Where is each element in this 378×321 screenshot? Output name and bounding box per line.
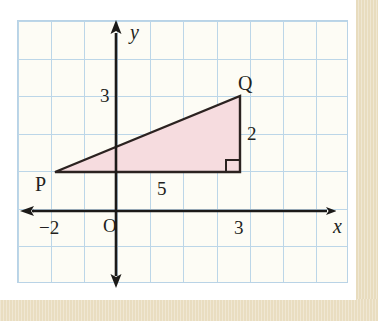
x-tick-label-minus2: −2 xyxy=(39,218,59,237)
page-background: y x 3 −2 3 O P Q 5 2 xyxy=(0,0,378,321)
side-label-height-2: 2 xyxy=(247,124,257,143)
side-label-base-5: 5 xyxy=(157,179,167,198)
y-axis-label: y xyxy=(130,22,139,42)
coordinate-geometry-figure: y x 3 −2 3 O P Q 5 2 xyxy=(0,0,356,300)
x-axis-left-arrowhead xyxy=(20,206,34,216)
vertex-label-p: P xyxy=(35,174,46,194)
x-axis-label: x xyxy=(333,216,342,236)
origin-label: O xyxy=(103,216,117,235)
y-axis-bottom-arrowhead xyxy=(111,274,122,288)
vertex-label-q: Q xyxy=(238,73,252,93)
y-tick-label-3: 3 xyxy=(100,86,110,105)
paper-edge-bottom xyxy=(0,299,378,321)
graph-overlay xyxy=(0,0,356,300)
paper-edge-right xyxy=(355,0,378,321)
y-axis-top-arrowhead xyxy=(111,20,122,34)
x-tick-label-3: 3 xyxy=(234,218,244,237)
